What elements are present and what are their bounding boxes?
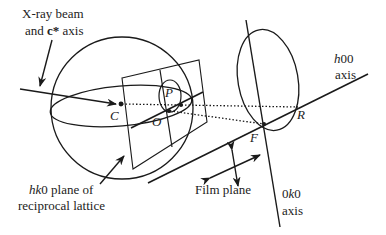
hk0-italic: hk xyxy=(29,182,41,197)
dotted-line-o-f xyxy=(170,111,264,124)
h00-label-line1: h00 xyxy=(334,51,354,66)
point-f-label: F xyxy=(250,131,258,144)
xray-label-line2: and c* axis xyxy=(25,23,84,38)
0k0-label-line2: axis xyxy=(282,203,303,218)
point-p-proj-dot xyxy=(179,103,183,107)
hk0-label-line1: hk0 plane of xyxy=(29,182,93,197)
point-f-dot xyxy=(262,122,266,126)
xray-label-arrow xyxy=(40,40,52,86)
point-r-label: R xyxy=(297,108,305,121)
hk0-rest: 0 plane of xyxy=(41,182,93,197)
xray-label-suffix: axis xyxy=(59,23,83,38)
hk0-label-arrow xyxy=(100,156,124,184)
c-star-label: c* xyxy=(47,23,59,38)
point-c-label: C xyxy=(110,109,119,122)
film-circle xyxy=(230,25,307,136)
xray-label-prefix: and xyxy=(25,23,47,38)
point-o-label: O xyxy=(152,115,161,128)
h00-label-line2: axis xyxy=(335,67,356,82)
0k0-label-line1: 0k0 xyxy=(282,186,301,201)
0k0-suffix: 0 xyxy=(294,186,301,201)
dotted-line-c-r xyxy=(122,104,298,107)
point-p-label: P xyxy=(165,86,173,99)
film-plane-label: Film plane xyxy=(195,182,251,197)
point-c-dot xyxy=(119,102,124,107)
xray-label-line1: X-ray beam xyxy=(22,6,84,21)
h00-rest: 00 xyxy=(341,51,354,66)
point-o-dot xyxy=(167,109,171,113)
hk0-label-line2: reciprocal lattice xyxy=(18,198,105,213)
xray-beam-line xyxy=(20,89,116,104)
